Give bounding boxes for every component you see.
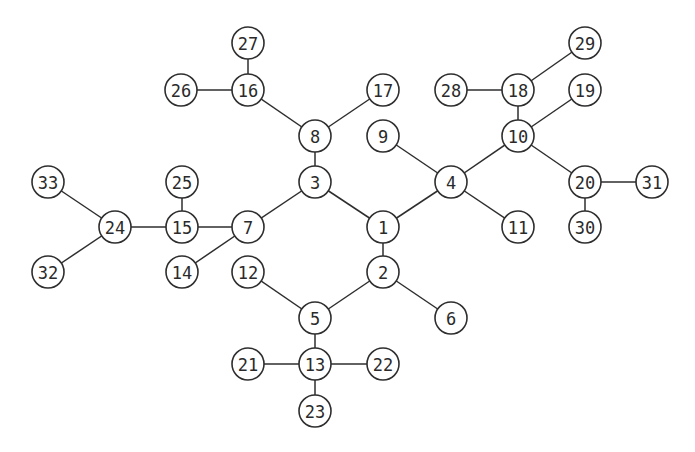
node-label: 10 (508, 127, 528, 147)
node-label: 27 (238, 34, 258, 54)
node-label: 13 (305, 355, 325, 375)
node-label: 1 (378, 218, 388, 238)
node-label: 19 (575, 81, 595, 101)
node-label: 5 (310, 309, 320, 329)
node-10: 10 (502, 120, 534, 152)
node-1: 1 (367, 211, 399, 243)
node-21: 21 (232, 348, 264, 380)
node-7: 7 (232, 211, 264, 243)
node-22: 22 (367, 348, 399, 380)
node-label: 2 (378, 263, 388, 283)
node-label: 23 (305, 402, 325, 422)
node-17: 17 (367, 74, 399, 106)
node-label: 22 (373, 355, 393, 375)
node-label: 24 (105, 218, 125, 238)
node-label: 17 (373, 81, 393, 101)
node-label: 7 (243, 218, 253, 238)
node-label: 11 (508, 218, 528, 238)
node-23: 23 (299, 395, 331, 427)
nodes-layer: 1234567891011121314151617181920212223242… (32, 27, 668, 427)
node-28: 28 (435, 74, 467, 106)
node-8: 8 (299, 120, 331, 152)
node-label: 29 (575, 34, 595, 54)
node-label: 33 (38, 173, 58, 193)
node-30: 30 (569, 211, 601, 243)
node-label: 18 (508, 81, 528, 101)
node-label: 14 (172, 263, 192, 283)
node-label: 32 (38, 263, 58, 283)
node-19: 19 (569, 74, 601, 106)
node-26: 26 (165, 74, 197, 106)
node-27: 27 (232, 27, 264, 59)
node-20: 20 (569, 166, 601, 198)
node-label: 3 (310, 173, 320, 193)
node-label: 28 (441, 81, 461, 101)
node-label: 4 (446, 173, 456, 193)
node-label: 21 (238, 355, 258, 375)
node-label: 26 (171, 81, 191, 101)
node-label: 20 (575, 173, 595, 193)
node-14: 14 (166, 256, 198, 288)
node-label: 30 (575, 218, 595, 238)
node-label: 6 (446, 309, 456, 329)
node-16: 16 (232, 74, 264, 106)
node-2: 2 (367, 256, 399, 288)
tree-diagram: 1234567891011121314151617181920212223242… (0, 0, 695, 452)
edges-layer (48, 43, 652, 411)
node-9: 9 (367, 120, 399, 152)
node-label: 15 (172, 218, 192, 238)
node-33: 33 (32, 166, 64, 198)
node-label: 8 (310, 127, 320, 147)
node-6: 6 (435, 302, 467, 334)
node-12: 12 (232, 256, 264, 288)
node-18: 18 (502, 74, 534, 106)
node-15: 15 (166, 211, 198, 243)
node-29: 29 (569, 27, 601, 59)
node-25: 25 (166, 166, 198, 198)
node-32: 32 (32, 256, 64, 288)
node-label: 9 (378, 127, 388, 147)
node-label: 31 (642, 173, 662, 193)
node-label: 25 (172, 173, 192, 193)
node-24: 24 (99, 211, 131, 243)
node-label: 12 (238, 263, 258, 283)
node-3: 3 (299, 166, 331, 198)
node-4: 4 (435, 166, 467, 198)
node-31: 31 (636, 166, 668, 198)
node-13: 13 (299, 348, 331, 380)
node-5: 5 (299, 302, 331, 334)
node-label: 16 (238, 81, 258, 101)
node-11: 11 (502, 211, 534, 243)
